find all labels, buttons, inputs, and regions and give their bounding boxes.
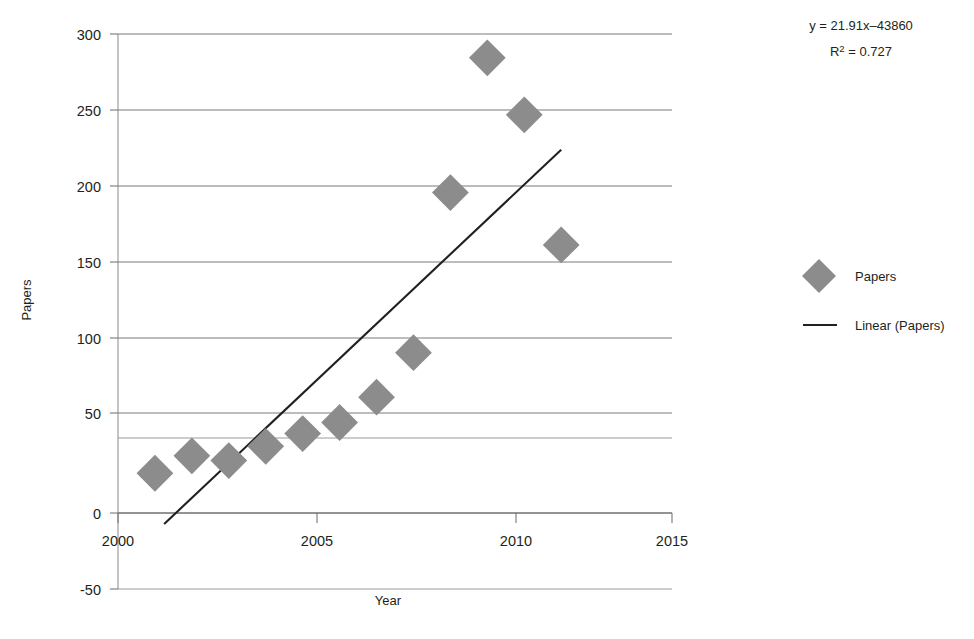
- data-point-marker: [210, 442, 247, 479]
- y-tick-label: 250: [77, 103, 101, 119]
- y-tick-label: 100: [77, 331, 101, 347]
- regression-equation-label: y = 21.91x–43860: [809, 18, 913, 33]
- legend-label: Linear (Papers): [855, 318, 945, 333]
- x-tick-label: 2015: [656, 533, 688, 549]
- y-tick-labels: 300 250 200 150 100 50 0 -50: [77, 27, 101, 598]
- data-point-marker: [137, 455, 174, 492]
- y-axis: [110, 34, 118, 589]
- legend-item-papers[interactable]: Papers: [802, 259, 897, 293]
- y-tick-label: -50: [80, 582, 101, 598]
- r-squared-label: R2 = 0.727: [830, 43, 892, 59]
- legend-label: Papers: [855, 269, 897, 284]
- x-tick-label: 2005: [301, 533, 333, 549]
- data-point-marker: [358, 379, 395, 416]
- r-squared-prefix: R: [830, 44, 839, 59]
- data-point-marker: [469, 39, 506, 76]
- scatter-plot-canvas: 300 250 200 150 100 50 0 -50 2000 2005 2…: [0, 0, 974, 639]
- data-point-marker: [543, 227, 580, 264]
- x-tick-label: 2010: [500, 533, 532, 549]
- y-axis-title: Papers: [19, 279, 34, 321]
- data-point-markers: [137, 39, 580, 491]
- x-axis-title: Year: [375, 593, 402, 608]
- chart-figure: 300 250 200 150 100 50 0 -50 2000 2005 2…: [0, 0, 974, 639]
- gridlines-horizontal: [118, 34, 672, 589]
- data-point-marker: [506, 96, 543, 133]
- data-point-marker: [284, 415, 321, 452]
- r-squared-suffix: = 0.727: [845, 44, 892, 59]
- y-tick-label: 0: [93, 506, 101, 522]
- y-tick-label: 300: [77, 27, 101, 43]
- y-tick-label: 150: [77, 255, 101, 271]
- data-point-marker: [395, 334, 432, 371]
- data-point-marker: [321, 404, 358, 441]
- data-point-marker: [432, 174, 469, 211]
- y-tick-label: 50: [85, 406, 101, 422]
- data-point-marker: [247, 428, 284, 465]
- chart-legend: Papers Linear (Papers): [802, 259, 945, 333]
- data-point-marker: [173, 437, 210, 474]
- diamond-icon: [802, 259, 836, 293]
- legend-item-linear-papers[interactable]: Linear (Papers): [803, 318, 945, 333]
- x-tick-label: 2000: [102, 533, 134, 549]
- y-tick-label: 200: [77, 179, 101, 195]
- x-axis: [118, 513, 672, 523]
- x-tick-labels: 2000 2005 2010 2015: [102, 533, 688, 549]
